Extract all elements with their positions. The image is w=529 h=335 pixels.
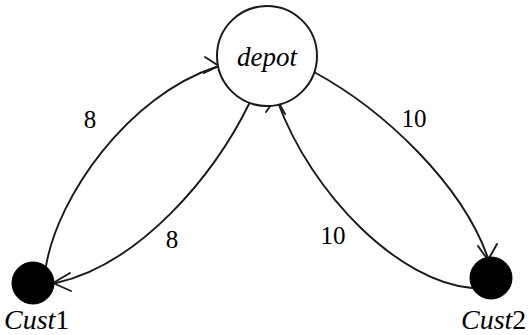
edge-cost-depot-to-cust1: 8 (166, 226, 179, 253)
node-depot[interactable]: depot (217, 6, 317, 106)
edge-path-cust1-to-depot (46, 67, 216, 266)
node-cust1[interactable]: Cust1 (4, 262, 69, 335)
cust2-label-name: Cust (461, 304, 514, 335)
edge-cost-cust2-to-depot: 10 (321, 222, 346, 249)
edge-depot-to-cust1 (53, 102, 250, 291)
diagram-canvas: depot Cust1 Cust2 8 8 10 10 (0, 0, 529, 335)
edge-cust2-to-depot (266, 98, 472, 288)
edge-path-cust2-to-depot (277, 100, 472, 288)
cust2-label-index: 2 (512, 304, 526, 335)
cust1-dot[interactable] (12, 262, 54, 304)
graph-svg: depot Cust1 Cust2 8 8 10 10 (0, 0, 529, 335)
edge-cust1-to-depot (46, 57, 219, 266)
cust2-dot[interactable] (470, 257, 512, 299)
cust2-label: Cust2 (461, 304, 526, 335)
depot-label: depot (237, 42, 298, 72)
edge-cost-cust1-to-depot: 8 (84, 106, 97, 133)
cust1-label: Cust1 (4, 304, 69, 335)
edge-cost-depot-to-cust2: 10 (402, 105, 427, 132)
cust1-label-name: Cust (4, 304, 57, 335)
node-cust2[interactable]: Cust2 (461, 257, 526, 335)
cust1-label-index: 1 (55, 304, 69, 335)
